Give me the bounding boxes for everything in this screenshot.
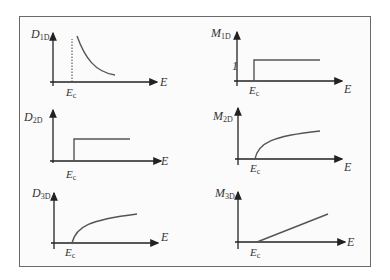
curve xyxy=(257,214,328,242)
y-label: M2D xyxy=(212,109,233,124)
threshold-label: Ec xyxy=(248,84,260,98)
y-label: D3D xyxy=(31,186,51,201)
x-label: E xyxy=(343,160,352,174)
y-label: M1D xyxy=(210,26,231,41)
x-label: E xyxy=(346,235,355,249)
threshold-label: Ec xyxy=(65,168,77,182)
panel-m2d: M2D E Ec xyxy=(212,108,352,176)
threshold-label: Ec xyxy=(65,86,77,100)
x-label: E xyxy=(343,82,352,96)
y-label: D1D xyxy=(30,27,50,42)
panel-d1d: D1D E Ec xyxy=(30,27,168,100)
panel-m3d: M3D E Ec xyxy=(214,186,355,260)
panel-m1d: M1D 1 E Ec xyxy=(210,26,352,98)
curve xyxy=(254,60,320,81)
step-label: 1 xyxy=(232,59,238,73)
x-label: E xyxy=(160,154,169,168)
curve xyxy=(77,36,115,75)
y-label: D2D xyxy=(23,110,43,125)
threshold-label: Ec xyxy=(249,162,261,176)
figure-svg: D1D E Ec M1D 1 E Ec D2D E Ec M2D E Ec D3… xyxy=(0,0,390,280)
panel-d3d: D3D E Ec xyxy=(31,186,169,260)
threshold-label: Ec xyxy=(64,246,76,260)
curve xyxy=(255,131,320,159)
x-label: E xyxy=(160,230,169,244)
x-label: E xyxy=(159,75,168,89)
y-label: M3D xyxy=(214,186,235,201)
curve xyxy=(74,139,130,161)
threshold-label: Ec xyxy=(249,246,261,260)
curve xyxy=(72,214,137,243)
panel-d2d: D2D E Ec xyxy=(23,110,169,182)
